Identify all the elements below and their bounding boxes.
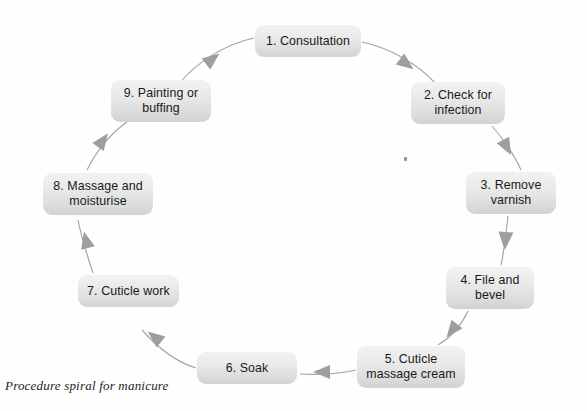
process-node-step-4[interactable]: 4. File and bevel [446,267,534,309]
edge-4-5-arrowhead [441,320,462,342]
edge-2-3-arrowhead [497,137,517,159]
process-node-step-8[interactable]: 8. Massage and moisturise [43,173,153,215]
edge-9-1-arrowhead [202,48,224,69]
edge-5-6-arrowhead [313,365,330,379]
process-node-step-3[interactable]: 3. Remove varnish [466,172,556,214]
edge-9-1-line [178,38,254,85]
edge-1-2-arrowhead [396,53,418,74]
process-node-step-7[interactable]: 7. Cuticle work [78,275,179,307]
process-node-label: 3. Remove varnish [481,178,542,208]
process-node-label: 4. File and bevel [461,273,520,303]
process-node-step-5[interactable]: 5. Cuticle massage cream [357,346,465,388]
process-node-step-6[interactable]: 6. Soak [197,352,297,384]
scan-artifact-speck [404,157,407,161]
process-node-step-1[interactable]: 1. Consultation [255,25,361,57]
edge-7-8-arrowhead [77,230,95,250]
process-node-step-2[interactable]: 2. Check for infection [411,82,505,124]
edge-6-7-arrowhead [143,326,165,347]
process-node-step-9[interactable]: 9. Painting or buffing [111,80,211,122]
process-node-label: 8. Massage and moisturise [53,179,143,209]
process-node-label: 1. Consultation [266,34,350,49]
edge-3-4-arrowhead [497,231,513,250]
edge-8-9-line [87,122,127,170]
edge-8-9-arrowhead [92,129,113,151]
process-node-label: 2. Check for infection [424,88,492,118]
diagram-canvas: 1. Consultation 2. Check for infection 3… [0,0,587,411]
process-node-label: 9. Painting or buffing [124,86,198,116]
process-node-label: 6. Soak [226,361,269,376]
process-node-label: 7. Cuticle work [87,284,170,299]
figure-caption: Procedure spiral for manicure [5,378,169,394]
process-node-label: 5. Cuticle massage cream [366,352,455,382]
